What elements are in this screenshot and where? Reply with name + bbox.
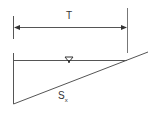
arrowhead-left-icon — [14, 25, 20, 30]
top-width-label: T — [66, 11, 72, 21]
pavement-cross-slope-line — [14, 52, 149, 104]
gutter-diagram — [0, 0, 157, 115]
cross-slope-main: S — [58, 90, 65, 101]
arrowhead-right-icon — [121, 25, 127, 30]
cross-slope-subscript: x — [65, 97, 68, 103]
cross-slope-label: Sx — [58, 91, 68, 103]
